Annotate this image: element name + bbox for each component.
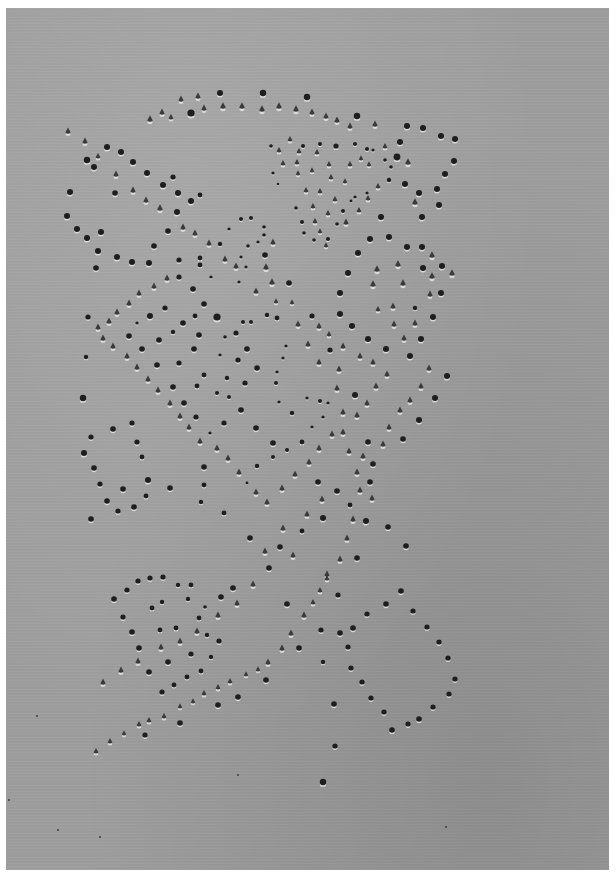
- drop-hole: [164, 275, 169, 283]
- drop-hole: [405, 158, 411, 167]
- drop-hole: [288, 136, 293, 144]
- drop-hole: [191, 698, 195, 705]
- round-hole: [158, 628, 163, 634]
- round-hole: [181, 400, 187, 407]
- round-hole: [420, 265, 426, 273]
- round-hole: [383, 158, 387, 163]
- round-hole: [203, 605, 207, 609]
- drop-hole: [262, 548, 267, 556]
- drop-hole: [264, 499, 269, 507]
- drop-hole: [295, 321, 300, 329]
- round-hole: [209, 275, 212, 279]
- round-hole: [114, 254, 120, 262]
- round-hole: [349, 323, 355, 331]
- round-hole: [354, 113, 360, 121]
- round-hole: [242, 380, 247, 387]
- round-hole: [413, 306, 417, 312]
- round-hole: [416, 417, 422, 425]
- round-hole: [274, 381, 278, 386]
- speck: [36, 715, 38, 717]
- drop-hole: [311, 203, 316, 211]
- drop-hole: [259, 105, 265, 114]
- drop-hole: [233, 263, 238, 271]
- drop-hole: [169, 114, 174, 122]
- round-hole: [430, 314, 436, 322]
- drop-hole: [426, 365, 431, 373]
- round-hole: [199, 500, 203, 506]
- round-hole: [218, 594, 224, 601]
- round-hole: [238, 407, 244, 414]
- drop-hole: [374, 265, 380, 274]
- round-hole: [174, 626, 179, 632]
- drop-hole: [147, 717, 152, 725]
- round-hole: [150, 606, 155, 612]
- round-hole: [241, 320, 245, 325]
- round-hole: [139, 346, 145, 353]
- round-hole: [134, 439, 139, 446]
- drop-hole: [372, 121, 377, 129]
- round-hole: [400, 436, 406, 443]
- round-hole: [410, 608, 415, 615]
- drop-hole: [100, 679, 105, 687]
- drop-hole: [177, 413, 182, 421]
- drop-hole: [412, 198, 418, 207]
- round-hole: [320, 779, 326, 787]
- drop-hole: [390, 303, 395, 311]
- drop-hole: [157, 204, 163, 213]
- round-hole: [144, 494, 149, 500]
- round-hole: [365, 439, 371, 446]
- round-hole: [170, 384, 176, 391]
- drop-hole: [370, 359, 375, 367]
- round-hole: [300, 220, 304, 225]
- round-hole: [154, 362, 160, 369]
- drop-hole: [192, 230, 197, 238]
- round-hole: [120, 614, 125, 621]
- round-hole: [326, 401, 329, 405]
- drop-hole: [369, 495, 374, 503]
- round-hole: [277, 183, 279, 186]
- round-hole: [327, 347, 332, 354]
- round-hole: [202, 373, 207, 379]
- round-hole: [337, 630, 343, 637]
- drop-hole: [306, 459, 311, 467]
- drop-hole: [253, 288, 258, 296]
- drop-hole: [376, 183, 381, 191]
- drop-hole: [178, 703, 182, 710]
- drop-hole: [370, 280, 376, 289]
- drop-hole: [305, 341, 310, 349]
- round-hole: [365, 147, 369, 152]
- drop-hole: [313, 218, 318, 226]
- drop-hole: [206, 240, 211, 248]
- drop-hole: [319, 496, 324, 504]
- drop-hole: [108, 738, 113, 746]
- round-hole: [405, 721, 410, 728]
- round-hole: [97, 481, 102, 488]
- round-hole: [235, 357, 240, 364]
- round-hole: [95, 248, 101, 256]
- round-hole: [284, 344, 287, 348]
- round-hole: [332, 743, 337, 750]
- round-hole: [129, 259, 135, 267]
- drop-hole: [250, 581, 255, 589]
- round-hole: [176, 257, 181, 264]
- round-hole: [135, 578, 140, 585]
- drop-hole: [327, 331, 332, 339]
- drop-hole: [126, 300, 131, 308]
- round-hole: [88, 434, 93, 441]
- round-hole: [191, 346, 197, 353]
- round-hole: [170, 174, 175, 181]
- drop-hole: [222, 256, 227, 264]
- round-hole: [263, 677, 269, 684]
- round-hole: [365, 336, 371, 344]
- round-hole: [253, 425, 259, 432]
- round-hole: [130, 159, 136, 167]
- drop-hole: [220, 102, 226, 111]
- drop-hole: [380, 441, 385, 449]
- punched-holes-pattern: [0, 0, 616, 876]
- round-hole: [198, 256, 203, 262]
- round-hole: [398, 588, 404, 595]
- drop-hole: [82, 138, 87, 146]
- round-hole: [451, 158, 457, 166]
- drop-hole: [401, 335, 406, 343]
- round-hole: [296, 645, 302, 652]
